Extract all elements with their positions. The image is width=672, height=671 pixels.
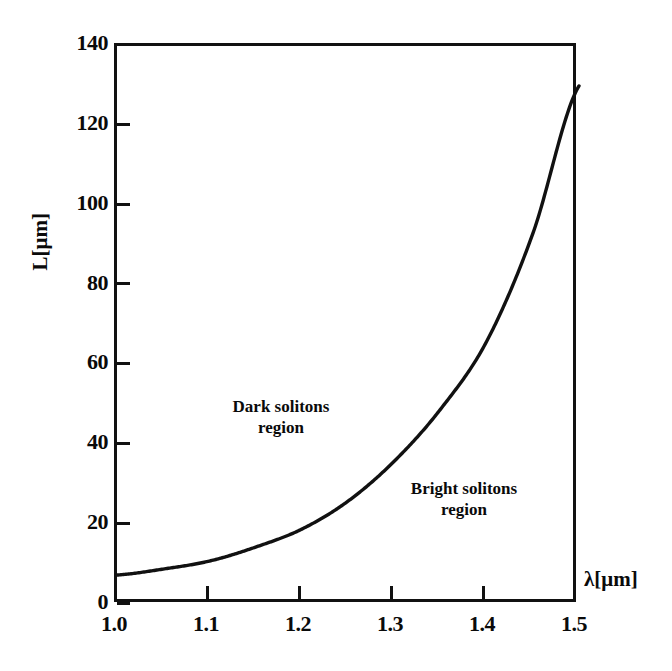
x-axis-title: λ[μm] <box>584 567 638 592</box>
annotation-dark-line-1: Dark solitons <box>191 396 371 417</box>
x-tick-label-1-3: 1.3 <box>355 613 425 635</box>
x-tick-label-1-1: 1.1 <box>171 613 241 635</box>
annotation-dark-line-2: region <box>191 417 371 438</box>
y-tick-label-40: 40 <box>48 431 108 453</box>
x-tick-label-1-5: 1.5 <box>539 613 609 635</box>
annotation-bright-line-1: Bright solitons <box>369 478 559 499</box>
y-tick-label-60: 60 <box>48 351 108 373</box>
figure-canvas: 140 120 100 80 60 40 20 0 L[μm] 1.0 1.1 … <box>0 0 672 671</box>
x-tick-label-1-4: 1.4 <box>447 613 517 635</box>
y-tick-label-80: 80 <box>48 272 108 294</box>
annotation-bright-line-2: region <box>369 499 559 520</box>
x-tick-label-1-2: 1.2 <box>263 613 333 635</box>
annotation-bright-solitons-region: Bright solitons region <box>369 478 559 521</box>
x-tick-label-1-0: 1.0 <box>79 613 149 635</box>
soliton-boundary-curve <box>117 46 579 605</box>
y-tick-label-100: 100 <box>48 192 108 214</box>
y-tick-label-0: 0 <box>48 591 108 613</box>
annotation-dark-solitons-region: Dark solitons region <box>191 396 371 439</box>
y-tick-label-20: 20 <box>48 511 108 533</box>
y-tick-label-120: 120 <box>48 112 108 134</box>
y-tick-label-140: 140 <box>48 32 108 54</box>
y-axis-title: L[μm] <box>28 227 53 271</box>
